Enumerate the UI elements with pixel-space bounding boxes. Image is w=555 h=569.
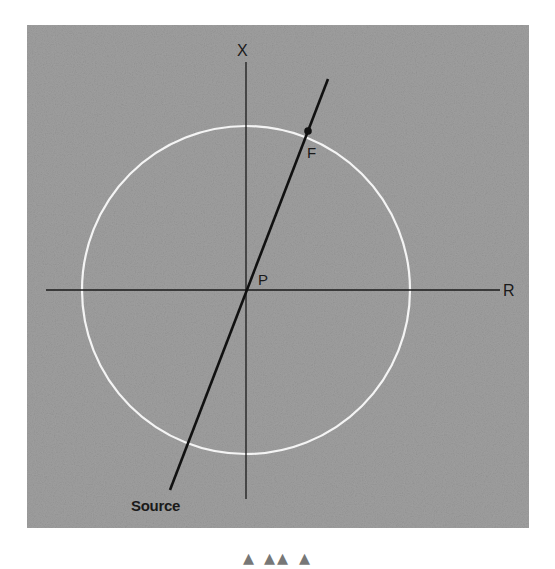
background-panel [27, 25, 529, 528]
r-axis-label: R [503, 283, 515, 299]
point-f-dot [304, 127, 312, 135]
figure-caption-truncated: ▴ ▴▴ ▴ [0, 545, 555, 569]
point-p-label: P [258, 272, 268, 287]
x-axis-label: X [237, 43, 248, 59]
source-label: Source [131, 498, 180, 513]
point-f-label: F [307, 145, 316, 160]
